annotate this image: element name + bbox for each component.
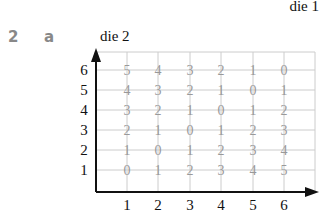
- grid-value: 2: [218, 63, 225, 78]
- grid-value: 0: [124, 163, 131, 178]
- x-tick-label: 3: [186, 197, 194, 213]
- grid-value: 1: [124, 143, 131, 158]
- y-tick-label: 6: [80, 62, 88, 78]
- y-tick-label: 3: [80, 122, 88, 138]
- grid-value: 0: [218, 103, 225, 118]
- grid-value: 1: [250, 103, 257, 118]
- x-tick-label: 1: [123, 197, 131, 213]
- grid-value: 2: [281, 103, 288, 118]
- grid-value: 1: [250, 63, 257, 78]
- y-tick-label: 1: [80, 162, 88, 178]
- grid-value: 1: [155, 163, 162, 178]
- grid-value: 4: [281, 143, 288, 158]
- y-tick-label: 5: [80, 82, 88, 98]
- grid-value: 0: [187, 123, 194, 138]
- grid-value: 4: [155, 63, 162, 78]
- grid-value: 3: [187, 63, 194, 78]
- grid-value: 0: [281, 63, 288, 78]
- x-tick-label: 5: [249, 197, 257, 213]
- grid-value: 3: [281, 123, 288, 138]
- x-tick-label: 4: [217, 197, 225, 213]
- grid-value: 2: [250, 123, 257, 138]
- grid-value: 5: [124, 63, 131, 78]
- y-tick-labels: 123456: [80, 62, 88, 178]
- y-axis-arrow-icon: [91, 48, 101, 62]
- x-tick-label: 6: [280, 197, 288, 213]
- grid-value: 2: [218, 143, 225, 158]
- grid-value: 1: [218, 83, 225, 98]
- grid-value: 3: [155, 83, 162, 98]
- y-tick-label: 4: [80, 102, 88, 118]
- x-tick-labels: 123456: [123, 197, 288, 213]
- grid-value: 3: [250, 143, 257, 158]
- grid-values: 543210432101321012210123101234012345: [124, 63, 288, 178]
- grid-value: 2: [155, 103, 162, 118]
- grid-value: 0: [250, 83, 257, 98]
- grid-value: 2: [124, 123, 131, 138]
- grid-value: 1: [281, 83, 288, 98]
- grid-value: 2: [187, 83, 194, 98]
- y-tick-label: 2: [80, 142, 88, 158]
- grid-value: 3: [124, 103, 131, 118]
- grid-value: 4: [250, 163, 257, 178]
- grid-value: 0: [155, 143, 162, 158]
- grid-value: 1: [187, 143, 194, 158]
- grid-value: 1: [218, 123, 225, 138]
- grid-value: 2: [187, 163, 194, 178]
- grid-value: 1: [155, 123, 162, 138]
- grid-value: 5: [281, 163, 288, 178]
- x-tick-label: 2: [154, 197, 162, 213]
- x-axis-arrow-icon: [305, 187, 319, 197]
- grid-value: 1: [187, 103, 194, 118]
- grid-value: 4: [124, 83, 131, 98]
- grid-value: 3: [218, 163, 225, 178]
- difference-grid-diagram: 123456 123456 54321043210132101221012310…: [0, 0, 321, 213]
